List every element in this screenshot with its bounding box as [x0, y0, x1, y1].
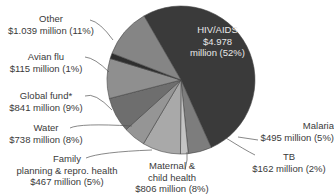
label-tb: TB $162 million (2%)	[244, 151, 334, 174]
label-global-fund: Global fund* $841 million (9%)	[6, 90, 86, 113]
label-family-planning: Family planning & repro. health $467 mil…	[12, 153, 122, 188]
label-family-line1: Family	[12, 153, 122, 165]
label-maternal-value: $806 million (8%)	[132, 183, 212, 195]
label-tb-value: $162 million (2%)	[244, 163, 334, 175]
label-avian-value: $115 million (1%)	[6, 63, 86, 75]
label-family-value: $467 million (5%)	[12, 176, 122, 188]
label-other: Other $1.039 million (11%)	[6, 13, 96, 36]
label-hiv-name: HIV/AIDS	[190, 24, 245, 36]
label-malaria-name: Malaria	[258, 120, 334, 132]
label-maternal-line1: Maternal &	[132, 160, 212, 172]
label-hiv-aids: HIV/AIDS $4.978 million (52%)	[190, 24, 245, 59]
label-tb-name: TB	[244, 151, 334, 163]
label-water: Water $738 million (8%)	[6, 122, 86, 145]
label-malaria-value: $495 million (5%)	[258, 132, 334, 144]
label-global-name: Global fund*	[6, 90, 86, 102]
label-hiv-percent: million (52%)	[190, 47, 245, 59]
leader-line-global-fund	[85, 95, 112, 110]
label-avian-name: Avian flu	[6, 51, 86, 63]
label-other-name: Other	[6, 13, 96, 25]
label-maternal-line2: child health	[132, 172, 212, 184]
label-hiv-value: $4.978	[190, 36, 245, 48]
label-maternal-child-health: Maternal & child health $806 million (8%…	[132, 160, 212, 195]
label-avian-flu: Avian flu $115 million (1%)	[6, 51, 86, 74]
label-global-value: $841 million (9%)	[6, 102, 86, 114]
leader-line-avian-flu	[85, 57, 109, 72]
label-malaria: Malaria $495 million (5%)	[258, 120, 334, 143]
label-water-value: $738 million (8%)	[6, 134, 86, 146]
leader-line-malaria	[238, 137, 258, 140]
label-water-name: Water	[6, 122, 86, 134]
label-family-line2: planning & repro. health	[12, 165, 122, 177]
label-other-value: $1.039 million (11%)	[6, 25, 96, 37]
